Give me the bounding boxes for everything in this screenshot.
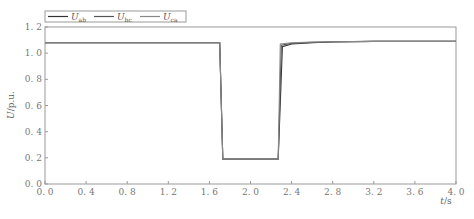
x-tick-label: 0. 8 — [119, 187, 136, 197]
series-line-ab — [45, 41, 456, 159]
line-chart: UabUbcUca 0. 00. 20. 40. 60. 81. 01. 2 0… — [0, 0, 474, 219]
chart-legend: UabUbcUca — [45, 11, 186, 23]
data-series — [45, 41, 456, 159]
y-tick-label: 1. 0 — [25, 48, 42, 58]
x-tick-label: 3. 6 — [406, 187, 423, 197]
series-line-bc — [45, 41, 456, 159]
x-tick-label: 3. 2 — [365, 187, 382, 197]
y-axis-label: U/p.u. — [6, 91, 16, 119]
x-axis-label: t/s — [440, 196, 452, 206]
series-line-ca — [45, 41, 456, 159]
x-tick-label: 2. 8 — [324, 187, 341, 197]
x-tick-label: 2. 4 — [283, 187, 300, 197]
x-tick-label: 0. 4 — [78, 187, 95, 197]
y-tick-label: 1. 2 — [25, 22, 42, 32]
x-axis: 0. 00. 40. 81. 21. 62. 02. 42. 83. 23. 6… — [36, 181, 464, 197]
x-tick-label: 1. 2 — [160, 187, 177, 197]
y-tick-label: 0. 8 — [25, 74, 42, 84]
x-tick-label: 2. 0 — [242, 187, 259, 197]
y-tick-label: 0. 6 — [25, 101, 42, 111]
x-tick-label: 1. 6 — [201, 187, 218, 197]
plot-area — [45, 27, 456, 184]
y-tick-label: 0. 2 — [25, 153, 42, 163]
x-tick-label: 0. 0 — [36, 187, 53, 197]
y-tick-label: 0. 4 — [25, 127, 42, 137]
